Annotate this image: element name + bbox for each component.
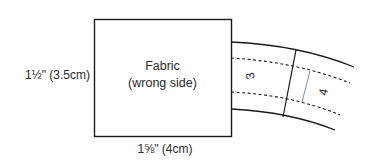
fabric-label: Fabric (wrong side) [94, 58, 231, 92]
fabric-title: Fabric [94, 58, 231, 75]
strip-top-edge [231, 42, 354, 67]
segment-guide-line [302, 71, 310, 102]
fabric-subtitle: (wrong side) [94, 75, 231, 92]
segment-divider [283, 50, 296, 117]
height-dimension-label: 1½" (3.5cm) [4, 68, 90, 82]
strip-bottom-edge [231, 109, 335, 130]
width-dimension-label: 1⅝" (4cm) [120, 142, 210, 156]
